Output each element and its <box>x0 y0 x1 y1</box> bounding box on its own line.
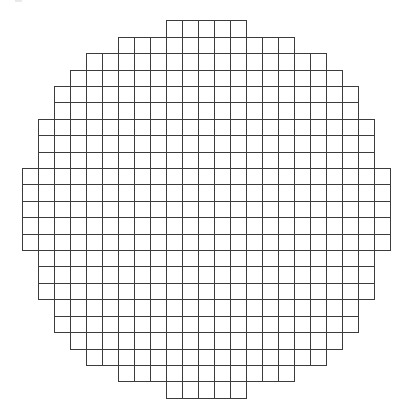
grid-cell <box>295 317 311 333</box>
grid-cell <box>135 235 151 251</box>
grid-cell <box>311 300 327 317</box>
grid-cell <box>231 169 247 185</box>
grid-cell <box>359 185 375 202</box>
grid-cell <box>87 333 103 350</box>
grid-cell <box>199 317 215 333</box>
grid-cell <box>247 218 263 235</box>
grid-cell <box>231 300 247 317</box>
grid-cell <box>199 366 215 382</box>
grid-cell <box>263 38 279 54</box>
grid-cell <box>311 185 327 202</box>
grid-cell <box>311 317 327 333</box>
grid-cell <box>183 136 199 153</box>
grid-cell <box>263 366 279 382</box>
grid-cell <box>311 235 327 251</box>
grid-cell <box>23 202 39 218</box>
grid-cell <box>263 169 279 185</box>
grid-cell <box>263 87 279 103</box>
grid-cell <box>167 103 183 120</box>
grid-cell <box>279 71 295 87</box>
grid-cell <box>103 251 119 267</box>
grid-cell <box>199 54 215 71</box>
grid-cell <box>215 235 231 251</box>
grid-cell <box>279 38 295 54</box>
grid-cell <box>151 333 167 350</box>
grid-cell <box>183 317 199 333</box>
grid-cell <box>119 317 135 333</box>
grid-cell <box>55 120 71 136</box>
grid-cell <box>55 218 71 235</box>
grid-cell <box>119 38 135 54</box>
grid-cell <box>279 350 295 366</box>
grid-cell <box>327 136 343 153</box>
grid-cell <box>263 54 279 71</box>
grid-cell <box>327 284 343 300</box>
grid-cell <box>183 185 199 202</box>
grid-cell <box>55 136 71 153</box>
grid-cell <box>215 54 231 71</box>
grid-cell <box>135 251 151 267</box>
grid-cell <box>311 350 327 366</box>
grid-cell <box>199 267 215 284</box>
grid-cell <box>39 153 55 169</box>
grid-cell <box>87 350 103 366</box>
grid-cell <box>359 169 375 185</box>
grid-cell <box>151 103 167 120</box>
grid-cell <box>167 300 183 317</box>
grid-cell <box>135 71 151 87</box>
grid-cell <box>71 136 87 153</box>
grid-cell <box>279 136 295 153</box>
grid-cell <box>311 87 327 103</box>
grid-cell <box>103 333 119 350</box>
grid-cell <box>71 317 87 333</box>
grid-cell <box>199 136 215 153</box>
grid-cell <box>279 218 295 235</box>
grid-cell <box>343 284 359 300</box>
grid-cell <box>55 251 71 267</box>
grid-cell <box>375 169 391 185</box>
grid-cell <box>295 218 311 235</box>
grid-cell <box>39 235 55 251</box>
grid-cell <box>295 185 311 202</box>
grid-cell <box>87 153 103 169</box>
grid-cell <box>215 317 231 333</box>
grid-cell <box>119 251 135 267</box>
grid-cell <box>263 185 279 202</box>
grid-cell <box>231 317 247 333</box>
grid-cell <box>135 350 151 366</box>
grid-cell <box>247 87 263 103</box>
grid-cell <box>263 136 279 153</box>
grid-cell <box>23 169 39 185</box>
grid-cell <box>151 366 167 382</box>
grid-cell <box>103 267 119 284</box>
grid-cell <box>103 136 119 153</box>
grid-cell <box>327 267 343 284</box>
grid-cell <box>119 235 135 251</box>
grid-cell <box>135 267 151 284</box>
grid-cell <box>87 120 103 136</box>
grid-cell <box>231 235 247 251</box>
grid-cell <box>183 38 199 54</box>
grid-cell <box>151 169 167 185</box>
grid-cell <box>151 185 167 202</box>
grid-cell <box>311 251 327 267</box>
grid-cell <box>71 284 87 300</box>
grid-cell <box>103 185 119 202</box>
grid-cell <box>167 382 183 399</box>
grid-cell <box>119 202 135 218</box>
grid-cell <box>151 317 167 333</box>
grid-cell <box>119 169 135 185</box>
grid-cell <box>71 169 87 185</box>
grid-cell <box>279 103 295 120</box>
grid-cell <box>231 87 247 103</box>
grid-cell <box>103 54 119 71</box>
grid-cell <box>167 136 183 153</box>
grid-cell <box>55 103 71 120</box>
grid-cell <box>215 350 231 366</box>
grid-cell <box>103 218 119 235</box>
grid-cell <box>263 284 279 300</box>
grid-cell <box>295 284 311 300</box>
grid-cell <box>311 333 327 350</box>
grid-cell <box>119 300 135 317</box>
grid-cell <box>71 300 87 317</box>
